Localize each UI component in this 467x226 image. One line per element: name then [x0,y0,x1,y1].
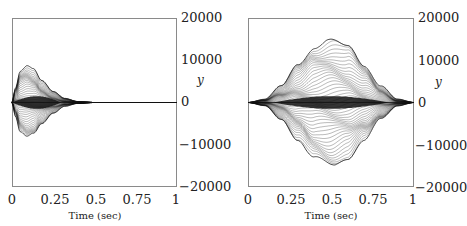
right-ytick-20000: 20000 [418,11,459,24]
left-ytick-10000: 10000 [181,53,222,66]
left-ytick-20000: 20000 [181,11,222,24]
right-xtick-0.25: 0.25 [277,193,306,206]
left-y-axis-label: y [197,73,204,87]
trajectory-curve [248,39,414,102]
right-plot-area [248,18,414,187]
right-xtick-0: 0 [244,193,252,206]
right-ytick-0: 0 [418,96,426,109]
left-xtick-1: 1 [172,193,180,206]
right-chart-panel: 20000 10000 y 0 −10000 −20000 0 0.25 0.5… [232,0,464,226]
left-chart-panel: 20000 10000 y 0 −10000 −20000 0 0.25 0.5… [0,0,232,226]
left-ytick-neg20000: −20000 [179,180,231,193]
right-ytick-10000: 10000 [418,54,459,67]
left-xtick-0.75: 0.75 [123,193,152,206]
left-xtick-0: 0 [8,193,16,206]
right-x-axis-label: Time (sec) [305,210,358,221]
right-y-axis-label: y [435,75,442,89]
left-ytick-neg10000: −10000 [179,138,231,151]
left-x-axis-label: Time (sec) [69,210,122,221]
right-xtick-0.5: 0.5 [322,193,343,206]
right-xtick-1: 1 [409,193,417,206]
right-ytick-neg10000: −10000 [415,139,467,152]
left-ytick-0: 0 [181,95,189,108]
trajectory-curve [248,103,414,147]
left-xtick-0.5: 0.5 [86,193,107,206]
left-xtick-0.25: 0.25 [41,193,70,206]
left-plot-area [12,18,177,187]
right-ytick-neg20000: −20000 [415,181,467,194]
right-xtick-0.75: 0.75 [359,193,388,206]
